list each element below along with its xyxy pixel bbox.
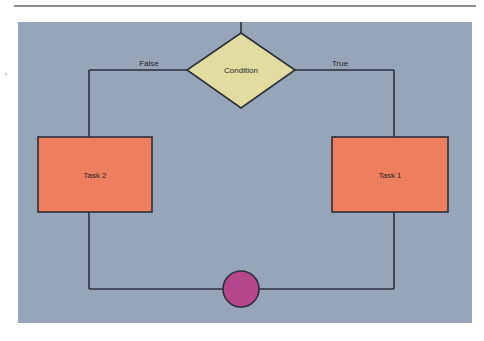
process-node-task-1[interactable]: Task 1	[332, 137, 448, 212]
process-node-task-2[interactable]: Task 2	[38, 137, 152, 212]
merge-node[interactable]	[223, 271, 259, 307]
flowchart-svg: Condition False True Task 2 Task 1	[18, 22, 472, 323]
edge-label-false: False	[139, 59, 159, 68]
decision-node-condition[interactable]: Condition	[187, 33, 295, 108]
edge-label-true: True	[332, 59, 349, 68]
decision-label: Condition	[224, 66, 258, 75]
task2-label: Task 2	[83, 171, 107, 180]
merge-circle	[223, 271, 259, 307]
page-root: + Cond	[0, 0, 484, 341]
page-top-rule	[14, 5, 476, 7]
diagram-canvas: Condition False True Task 2 Task 1	[18, 22, 472, 323]
margin-artifact-mark: +	[4, 72, 9, 77]
task1-label: Task 1	[378, 171, 402, 180]
